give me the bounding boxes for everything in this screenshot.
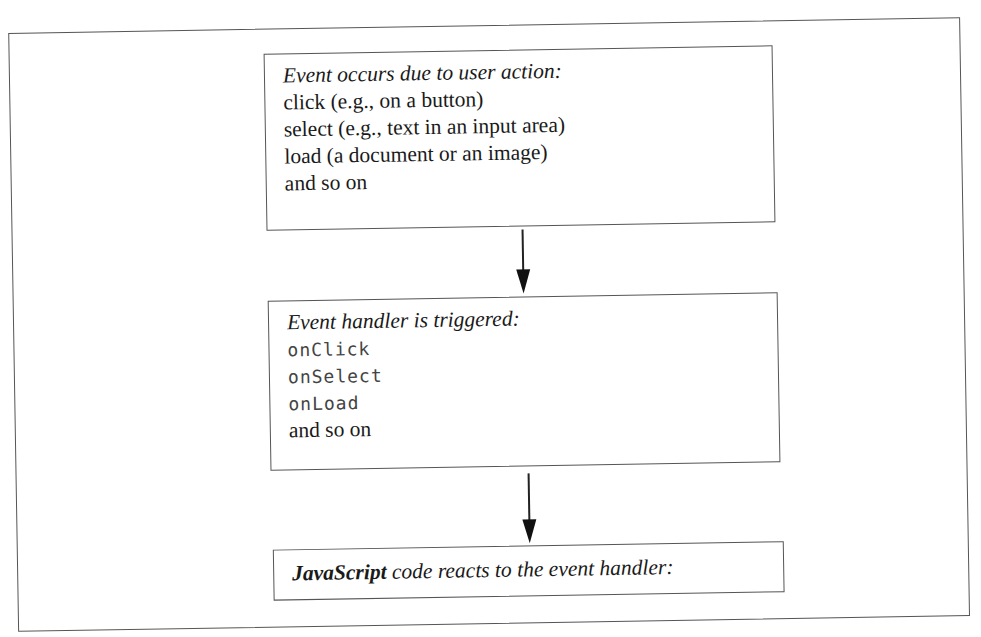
javascript-label: JavaScript bbox=[292, 560, 387, 586]
step-javascript-reacts-box: JavaScript code reacts to the event hand… bbox=[273, 541, 785, 600]
step-heading-rest: code reacts to the event handler: bbox=[386, 555, 673, 584]
step-user-action-box: Event occurs due to user action: click (… bbox=[264, 45, 776, 230]
arrow-down-icon bbox=[519, 473, 540, 543]
arrow-down-icon bbox=[513, 229, 534, 293]
step-event-handler-box: Event handler is triggered: onClick onSe… bbox=[268, 292, 781, 470]
diagram-page: Event occurs due to user action: click (… bbox=[0, 0, 981, 637]
step-heading: JavaScript code reacts to the event hand… bbox=[292, 552, 783, 587]
